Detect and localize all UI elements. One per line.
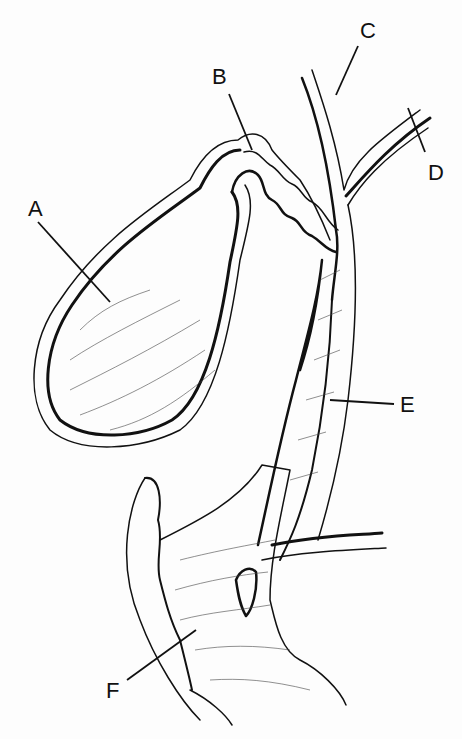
leader-line-d bbox=[408, 108, 425, 152]
biliary-anatomy-figure: A B C D E F bbox=[0, 0, 462, 739]
duodenum-outer bbox=[127, 478, 200, 720]
anatomy-drawing bbox=[0, 0, 462, 739]
leader-line-e bbox=[330, 400, 394, 404]
gallbladder-outer-wall bbox=[34, 134, 330, 447]
label-f: F bbox=[106, 680, 119, 702]
leader-line-b bbox=[229, 94, 252, 150]
label-b: B bbox=[212, 66, 227, 88]
gallbladder-inner-wall bbox=[48, 150, 240, 435]
label-e: E bbox=[400, 394, 415, 416]
leader-line-f bbox=[127, 630, 196, 680]
common-hepatic-duct-left bbox=[302, 78, 337, 300]
label-c: C bbox=[360, 20, 376, 42]
leader-line-c bbox=[336, 46, 358, 95]
cystic-duct bbox=[232, 171, 336, 252]
leader-line-a bbox=[38, 222, 110, 302]
label-a: A bbox=[28, 198, 43, 220]
label-d: D bbox=[428, 162, 444, 184]
pancreatic-duct bbox=[272, 533, 382, 545]
right-hepatic-duct bbox=[348, 128, 428, 205]
